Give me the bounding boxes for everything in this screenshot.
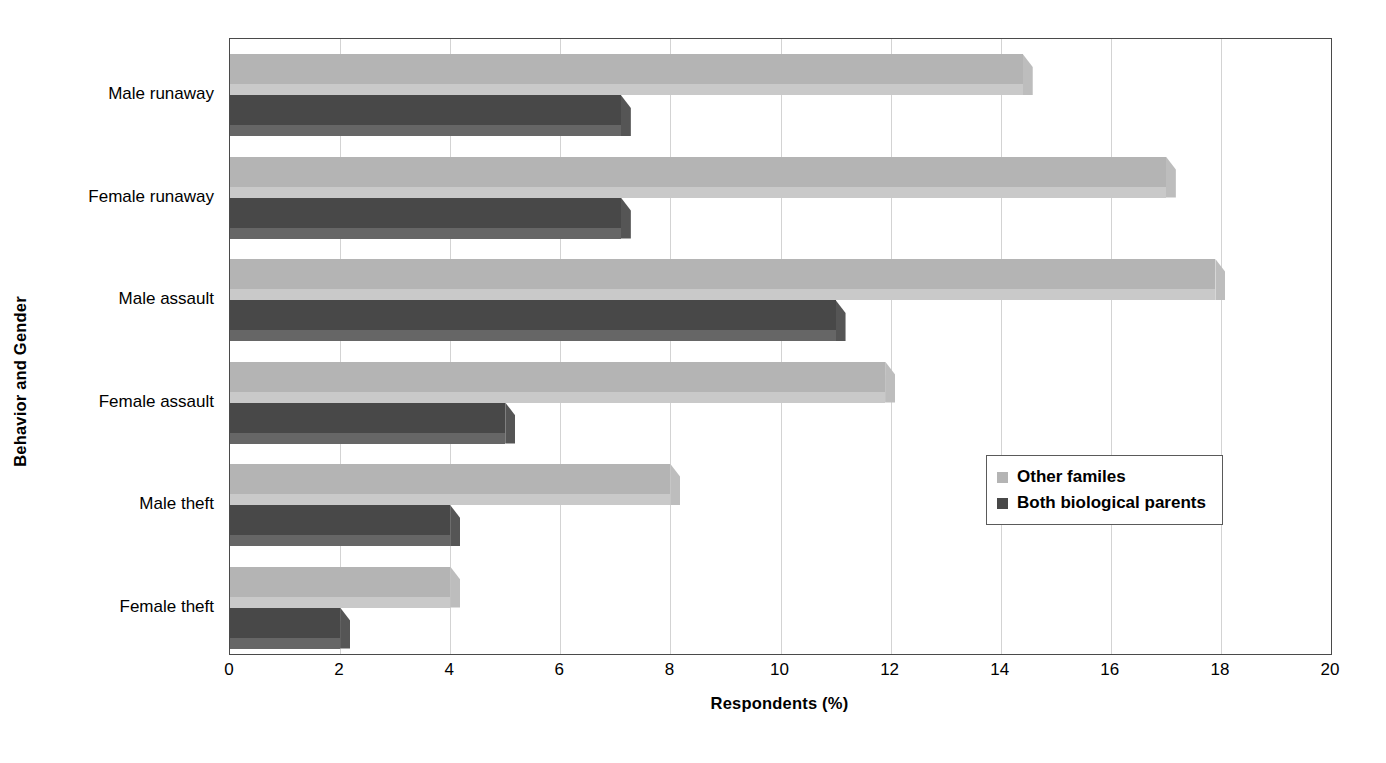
- bar-group: [230, 142, 1331, 245]
- bar-face: [230, 608, 340, 638]
- bar-face: [230, 198, 621, 228]
- y-axis-tick-label: Male runaway: [108, 82, 214, 106]
- bar: [230, 95, 621, 136]
- bar: [230, 567, 450, 608]
- bar: [230, 157, 1166, 198]
- x-axis-tick-label: 20: [1321, 660, 1340, 680]
- bar-shade: [230, 330, 836, 341]
- bar-end-cap: [885, 362, 895, 403]
- legend-label: Both biological parents: [1017, 493, 1206, 513]
- y-axis-tick-label: Male assault: [119, 287, 214, 311]
- bar-face: [230, 95, 621, 125]
- bar: [230, 198, 621, 239]
- bar-chart-figure: Behavior and Gender Male runawayFemale r…: [0, 0, 1386, 763]
- bar-face: [230, 464, 670, 494]
- bar-face: [230, 300, 836, 330]
- bar-end-cap: [670, 464, 680, 505]
- bar-group: [230, 39, 1331, 142]
- legend-swatch-icon: [997, 498, 1008, 509]
- x-axis-tick-label: 4: [444, 660, 453, 680]
- x-axis-tick-label: 18: [1210, 660, 1229, 680]
- bar-face: [230, 567, 450, 597]
- bar-end-cap: [450, 567, 460, 608]
- plot-area: [229, 38, 1332, 655]
- bar-shade: [230, 433, 505, 444]
- x-axis-tick-label: 16: [1100, 660, 1119, 680]
- x-axis-title: Respondents (%): [229, 694, 1330, 713]
- bar-face: [230, 362, 885, 392]
- y-axis-tick-label: Female theft: [120, 595, 215, 619]
- bar-shade: [230, 535, 450, 546]
- bar: [230, 464, 670, 505]
- y-axis-tick-label: Male theft: [139, 492, 214, 516]
- bar-face: [230, 259, 1215, 289]
- bar-group: [230, 552, 1331, 655]
- bar-face: [230, 505, 450, 535]
- bar-face: [230, 157, 1166, 187]
- bar-end-cap: [1023, 54, 1033, 95]
- legend-swatch-icon: [997, 472, 1008, 483]
- bar: [230, 505, 450, 546]
- bar: [230, 362, 885, 403]
- bar-end-cap: [340, 608, 350, 649]
- bar: [230, 300, 836, 341]
- x-axis-tick-labels: 02468101214161820: [229, 660, 1330, 686]
- bar-end-cap: [1166, 157, 1176, 198]
- bar-end-cap: [621, 95, 631, 136]
- bar: [230, 54, 1023, 95]
- bar-end-cap: [450, 505, 460, 546]
- bar-shade: [230, 597, 450, 608]
- x-axis-tick-label: 8: [665, 660, 674, 680]
- x-axis-tick-label: 10: [770, 660, 789, 680]
- bar-end-cap: [836, 300, 846, 341]
- x-axis-tick-label: 12: [880, 660, 899, 680]
- bar-shade: [230, 84, 1023, 95]
- legend-label: Other familes: [1017, 467, 1126, 487]
- x-axis-tick-label: 0: [224, 660, 233, 680]
- bar-end-cap: [1215, 259, 1225, 300]
- bar: [230, 259, 1215, 300]
- legend-item: Other familes: [997, 464, 1206, 490]
- y-axis-tick-labels: Male runawayFemale runawayMale assaultFe…: [40, 38, 222, 653]
- bar-shade: [230, 638, 340, 649]
- bar: [230, 608, 340, 649]
- bar-shade: [230, 494, 670, 505]
- x-axis-tick-label: 6: [555, 660, 564, 680]
- bar-group: [230, 244, 1331, 347]
- bar-shade: [230, 125, 621, 136]
- bar-end-cap: [621, 198, 631, 239]
- bar-end-cap: [505, 403, 515, 444]
- bar-shade: [230, 289, 1215, 300]
- y-axis-tick-label: Female runaway: [88, 185, 214, 209]
- bar-face: [230, 403, 505, 433]
- bar-shade: [230, 392, 885, 403]
- y-axis-title: Behavior and Gender: [0, 0, 40, 763]
- bar-shade: [230, 228, 621, 239]
- chart-legend: Other familesBoth biological parents: [986, 455, 1223, 525]
- bar-group: [230, 347, 1331, 450]
- x-axis-tick-label: 2: [334, 660, 343, 680]
- bars-layer: [230, 39, 1331, 654]
- bar: [230, 403, 505, 444]
- bar-face: [230, 54, 1023, 84]
- bar-shade: [230, 187, 1166, 198]
- legend-item: Both biological parents: [997, 490, 1206, 516]
- y-axis-tick-label: Female assault: [99, 390, 214, 414]
- x-axis-tick-label: 14: [990, 660, 1009, 680]
